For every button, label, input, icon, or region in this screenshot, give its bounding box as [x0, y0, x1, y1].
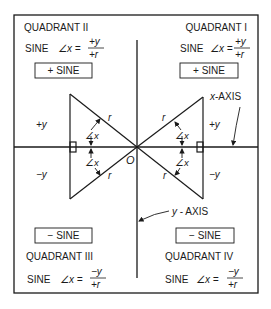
label-r-q1: r	[162, 112, 166, 123]
x-axis-label: x-AXIS	[209, 91, 241, 102]
x-axis-pointer	[233, 107, 240, 145]
label-r-q2: r	[108, 112, 112, 123]
svg-text:SINE: SINE	[25, 43, 49, 54]
quadrant-iii-block: − SINE QUADRANT III SINE ∠x = −y +r	[26, 228, 106, 290]
svg-text:−y: −y	[228, 266, 240, 277]
svg-text:+y: +y	[235, 36, 247, 47]
svg-text:∠x =: ∠x =	[210, 43, 233, 54]
svg-text:− SINE: − SINE	[48, 230, 80, 241]
quadrant-i-label: QUADRANT I	[186, 22, 248, 33]
svg-text:SINE: SINE	[27, 274, 51, 285]
label-angle-q3: ∠x	[85, 157, 100, 168]
label-angle-q1: ∠x	[175, 130, 190, 141]
svg-text:+y: +y	[89, 36, 101, 47]
svg-text:+ SINE: + SINE	[193, 65, 225, 76]
svg-text:+r: +r	[91, 279, 101, 290]
quadrant-i-block: QUADRANT I SINE ∠x = +y +r + SINE	[180, 22, 250, 78]
svg-text:∠x =: ∠x =	[196, 274, 219, 285]
label-angle-q2: ∠x	[85, 130, 100, 141]
y-axis-label: y - AXIS	[171, 206, 208, 217]
quadrant-ii-block: QUADRANT II SINE ∠x = +y +r + SINE	[24, 22, 104, 78]
svg-text:SINE: SINE	[180, 43, 204, 54]
label-plus-y-left: +y	[36, 119, 48, 130]
svg-text:∠x =: ∠x =	[58, 43, 81, 54]
label-angle-q4: ∠x	[175, 157, 190, 168]
svg-text:− SINE: − SINE	[189, 230, 221, 241]
label-plus-y-right: +y	[209, 119, 221, 130]
svg-text:∠x =: ∠x =	[60, 274, 83, 285]
origin-label: O	[126, 154, 135, 166]
svg-text:+ SINE: + SINE	[48, 65, 80, 76]
label-minus-y-left: −y	[36, 169, 48, 180]
quadrant-ii-label: QUADRANT II	[24, 22, 88, 33]
quadrant-iv-block: − SINE QUADRANT IV SINE ∠x = −y +r	[165, 228, 243, 290]
svg-text:+r: +r	[228, 279, 238, 290]
quadrant-iv-label: QUADRANT IV	[165, 251, 233, 262]
label-minus-y-right: −y	[209, 169, 221, 180]
right-triangles	[137, 97, 203, 199]
label-r-q3: r	[108, 170, 112, 181]
label-r-q4: r	[163, 170, 167, 181]
svg-text:SINE: SINE	[165, 274, 189, 285]
svg-text:+r: +r	[235, 49, 245, 60]
svg-text:−y: −y	[91, 266, 103, 277]
y-axis-pointer	[139, 211, 169, 221]
svg-text:+r: +r	[89, 49, 99, 60]
sine-quadrant-diagram: +y −y +y −y r r r r ∠x ∠x ∠x ∠x O x-AXIS…	[0, 0, 271, 309]
quadrant-iii-label: QUADRANT III	[26, 251, 93, 262]
